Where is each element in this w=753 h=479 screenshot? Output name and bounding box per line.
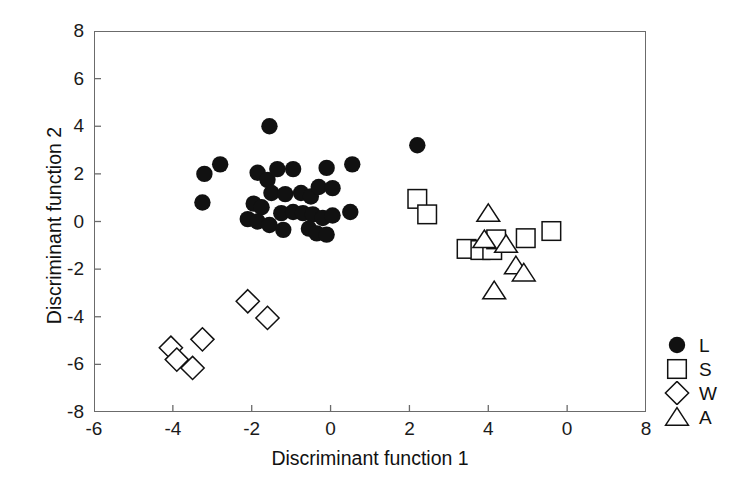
x-tick-label: -4 <box>164 418 181 440</box>
x-tick-label: -2 <box>243 418 260 440</box>
data-point-L <box>324 207 340 223</box>
series-S <box>408 190 561 260</box>
legend-item-L: L <box>664 333 748 357</box>
data-point-S <box>542 222 561 241</box>
data-point-L <box>285 161 301 177</box>
legend-label: S <box>699 360 712 379</box>
data-point-L <box>253 199 269 215</box>
plot-graphics-layer <box>0 0 753 479</box>
data-point-L <box>212 156 228 172</box>
legend-marker-open-triangle <box>664 405 690 429</box>
data-point-L <box>318 226 334 242</box>
legend-label: L <box>699 336 710 355</box>
legend-item-A: A <box>664 405 748 429</box>
data-point-L <box>269 161 285 177</box>
legend-marker-open-square <box>664 357 690 381</box>
data-point-L <box>275 222 291 238</box>
data-point-L <box>409 137 425 153</box>
legend: LSWA <box>664 333 748 429</box>
x-axis-title: Discriminant function 1 <box>94 447 646 470</box>
series-W <box>159 290 279 380</box>
data-point-W <box>256 306 279 329</box>
data-point-L <box>261 118 277 134</box>
legend-item-W: W <box>664 381 748 405</box>
data-points-layer <box>159 118 560 379</box>
data-point-L <box>196 166 212 182</box>
data-point-L <box>324 180 340 196</box>
data-point-L <box>344 156 360 172</box>
data-point-L <box>318 160 334 176</box>
x-tick-label: 0 <box>562 418 573 440</box>
x-tick-label: -6 <box>86 418 103 440</box>
data-point-A <box>477 204 500 222</box>
y-axis-title: Discriminant function 2 <box>43 26 66 426</box>
legend-item-S: S <box>664 357 748 381</box>
legend-label: A <box>699 408 712 427</box>
data-point-A <box>483 281 506 299</box>
x-tick-label: 0 <box>325 418 336 440</box>
data-point-L <box>342 204 358 220</box>
legend-label: W <box>699 384 717 403</box>
data-point-S <box>516 229 535 248</box>
x-tick-label: 2 <box>404 418 415 440</box>
data-point-S <box>418 205 437 224</box>
data-point-W <box>236 290 259 313</box>
data-point-L <box>194 194 210 210</box>
legend-marker-open-diamond <box>664 381 690 405</box>
data-point-L <box>277 186 293 202</box>
x-tick-label: 8 <box>641 418 652 440</box>
scatter-plot-figure: -8-6-4-202468 -6-4-202408 Discriminant f… <box>0 0 753 479</box>
series-L <box>194 118 425 243</box>
legend-marker-filled-circle <box>664 333 690 357</box>
x-tick-label: 4 <box>483 418 494 440</box>
data-point-W <box>191 328 214 351</box>
